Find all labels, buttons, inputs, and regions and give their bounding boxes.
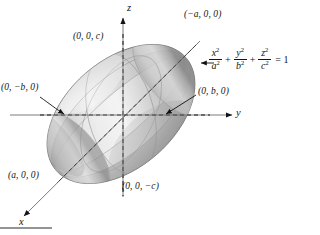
y-axis-label: y (236, 107, 241, 118)
ellipsoid-equation: x2 a2 + y2 b2 + z2 c2 = 1 (208, 47, 288, 71)
label-right-y-vertex: (0, b, 0) (198, 86, 229, 96)
term2-numerator-exponent: 2 (241, 46, 244, 53)
label-front-x-vertex: (a, 0, 0) (8, 170, 39, 180)
equation-term-2: y2 b2 (234, 47, 247, 71)
equation-operator-2: + (250, 54, 256, 65)
z-axis-label: z (127, 2, 131, 13)
term2-denominator-exponent: 2 (241, 59, 244, 66)
label-left-y-vertex: (0, −b, 0) (1, 82, 39, 92)
x-axis-label: x (19, 216, 24, 227)
term1-numerator-exponent: 2 (216, 46, 219, 53)
equation-term-1: x2 a2 (209, 47, 222, 71)
term3-denominator-exponent: 2 (265, 59, 268, 66)
ellipsoid-figure: (0, 0, c) (−a, 0, 0) (0, −b, 0) (0, b, 0… (0, 0, 320, 235)
term1-denominator-exponent: 2 (216, 59, 219, 66)
figure-canvas (0, 0, 320, 235)
equation-term-3: z2 c2 (258, 47, 271, 71)
term3-numerator-exponent: 2 (265, 46, 268, 53)
label-top-vertex: (0, 0, c) (73, 31, 103, 41)
equation-operator-1: + (225, 54, 231, 65)
label-bottom-vertex: (0, 0, −c) (122, 181, 159, 191)
ellipsoid-surface (10, 17, 232, 220)
equation-equals: = 1 (275, 54, 288, 65)
label-back-x-vertex: (−a, 0, 0) (184, 9, 222, 19)
